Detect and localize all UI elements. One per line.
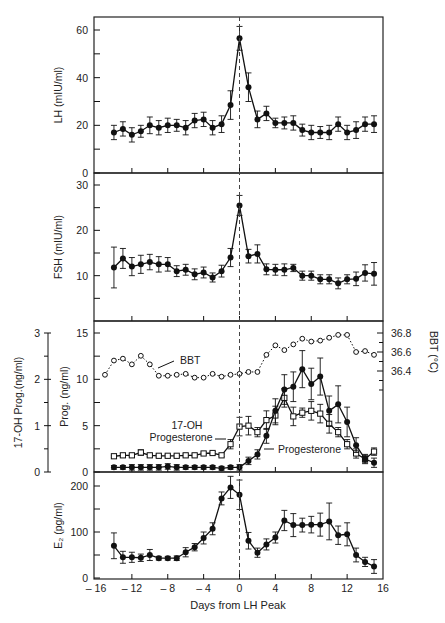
data-point xyxy=(299,273,305,279)
data-point xyxy=(228,102,234,108)
x-tick-label: 12 xyxy=(341,582,353,594)
oh-progesterone-annotation: 17-OH xyxy=(172,419,203,431)
data-point xyxy=(362,456,368,462)
y2-tick-label: 0 xyxy=(34,466,40,478)
data-point xyxy=(272,535,278,541)
data-point xyxy=(336,333,341,338)
data-point xyxy=(299,127,305,133)
data-point xyxy=(210,274,216,280)
data-point xyxy=(291,342,296,347)
data-point xyxy=(156,373,161,378)
x-tick-label: 0 xyxy=(237,582,243,594)
data-point xyxy=(345,333,350,338)
data-point xyxy=(282,348,287,353)
x-axis: – 16– 12– 8– 40481216 xyxy=(86,582,389,594)
data-point xyxy=(147,464,153,470)
data-point xyxy=(263,433,269,439)
data-point xyxy=(308,129,314,135)
data-point xyxy=(344,531,350,537)
data-point xyxy=(308,273,314,279)
data-point xyxy=(317,522,323,528)
estradiol-panel: 0100200E₂ (pg/ml) xyxy=(52,472,383,584)
data-point xyxy=(345,442,350,447)
data-point xyxy=(245,458,251,464)
oh-progesterone-annotation: Progesterone xyxy=(149,431,212,443)
data-point xyxy=(353,442,359,448)
data-point xyxy=(371,564,377,570)
data-point xyxy=(156,261,162,267)
data-point xyxy=(138,128,144,134)
data-point xyxy=(228,255,234,261)
data-point xyxy=(129,554,135,560)
data-point xyxy=(318,411,323,416)
data-point xyxy=(120,554,126,560)
y-axis-label: LH (mIU/ml) xyxy=(52,67,64,124)
data-point xyxy=(281,387,287,393)
data-point xyxy=(326,408,332,414)
data-point xyxy=(129,453,134,458)
data-point xyxy=(326,518,332,524)
data-point xyxy=(354,350,359,355)
data-point xyxy=(362,559,368,565)
data-point xyxy=(371,271,377,277)
y-tick-label: 200 xyxy=(70,480,88,492)
right-y-axis-label: BBT (°C) xyxy=(428,331,440,373)
y-tick-label: 15 xyxy=(76,327,88,339)
data-point xyxy=(120,464,126,470)
x-tick-label: 4 xyxy=(272,582,278,594)
y-tick-label: 30 xyxy=(76,179,88,191)
y-axis-label: E₂ (pg/ml) xyxy=(52,502,64,549)
data-point xyxy=(156,125,162,131)
data-point xyxy=(201,375,206,380)
data-point xyxy=(371,121,377,127)
data-point xyxy=(192,118,198,124)
data-point xyxy=(192,464,198,470)
data-point xyxy=(308,522,314,528)
data-point xyxy=(264,418,269,423)
data-point xyxy=(317,129,323,135)
data-point xyxy=(219,453,224,458)
data-point xyxy=(183,453,188,458)
panel3-series xyxy=(111,476,377,573)
data-point xyxy=(165,373,170,378)
x-tick-label: – 8 xyxy=(160,582,175,594)
panel3-line xyxy=(114,487,374,566)
data-point xyxy=(254,451,260,457)
y-tick-label: 0 xyxy=(82,466,88,478)
hormone-chart-figure: 0204060LH (mIU/ml) 102030FSH (mIU/ml) 05… xyxy=(0,0,445,623)
data-point xyxy=(138,464,144,470)
data-point xyxy=(299,522,305,528)
data-point xyxy=(290,120,296,126)
data-point xyxy=(219,465,225,471)
data-point xyxy=(120,453,125,458)
data-point xyxy=(147,453,152,458)
data-point xyxy=(210,450,215,455)
bbt-annotation: BBT xyxy=(180,354,201,366)
data-point xyxy=(344,276,350,282)
data-point xyxy=(362,121,368,127)
fsh-panel: 102030FSH (mIU/ml) xyxy=(52,173,383,321)
data-point xyxy=(290,384,296,390)
data-point xyxy=(120,126,126,132)
data-point xyxy=(300,410,305,415)
progesterone-bbt-panel: 051015Prog. (ng/ml)012317-OH Prog.(ng/ml… xyxy=(12,321,440,478)
data-point xyxy=(336,430,341,435)
data-point xyxy=(192,544,198,550)
data-point xyxy=(210,125,216,131)
data-point xyxy=(147,362,152,367)
lh-panel: 0204060LH (mIU/ml) xyxy=(52,17,383,179)
x-tick-label: 8 xyxy=(308,582,314,594)
y-axis-label: FSH (mIU/ml) xyxy=(52,215,64,279)
x-tick-label: 16 xyxy=(377,582,389,594)
data-point xyxy=(255,370,260,375)
data-point xyxy=(183,464,189,470)
y2-tick-label: 1 xyxy=(34,420,40,432)
right-y-tick-label: 36.4 xyxy=(391,365,412,377)
data-point xyxy=(246,370,251,375)
data-point xyxy=(201,116,207,122)
y-tick-label: 0 xyxy=(82,167,88,179)
data-point xyxy=(183,125,189,131)
data-point xyxy=(281,267,287,273)
data-point xyxy=(138,353,143,358)
data-point xyxy=(210,464,216,470)
